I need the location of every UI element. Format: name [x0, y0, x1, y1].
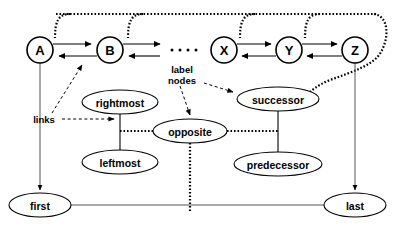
node-a-label: A — [35, 43, 45, 58]
label-node-first[interactable]: first — [9, 193, 71, 217]
dotted-curve-to-a — [55, 14, 70, 38]
label-node-leftmost[interactable]: leftmost — [82, 150, 158, 174]
ellipsis-dot — [195, 49, 198, 52]
node-z[interactable]: Z — [342, 37, 368, 63]
label-node-group: rightmost leftmost opposite successor pr… — [9, 87, 386, 217]
callout-links-to-pointer — [52, 65, 82, 113]
node-a[interactable]: A — [27, 37, 53, 63]
label-nodes-annotation-line1: label — [171, 64, 193, 75]
label-node-successor[interactable]: successor — [237, 87, 319, 111]
ellipsis-dot — [179, 49, 182, 52]
node-x[interactable]: X — [211, 37, 237, 63]
leftmost-label: leftmost — [100, 157, 141, 169]
node-b-label: B — [105, 43, 114, 58]
callout-labelnodes-to-successor — [204, 83, 233, 92]
rightmost-label: rightmost — [96, 97, 145, 109]
label-nodes-annotation-line2: nodes — [168, 75, 196, 86]
dotted-curve-to-x — [240, 14, 255, 38]
dotted-curve-to-b — [128, 14, 143, 38]
ellipsis-dot — [171, 49, 174, 52]
linked-list-diagram: A B X Y Z rightmost — [0, 0, 396, 227]
predecessor-label: predecessor — [247, 159, 309, 171]
node-z-label: Z — [351, 43, 359, 58]
first-label: first — [30, 200, 50, 212]
ellipsis-dots — [171, 49, 198, 52]
label-node-rightmost[interactable]: rightmost — [82, 90, 158, 114]
links-annotation: links — [33, 114, 55, 125]
node-b[interactable]: B — [97, 37, 123, 63]
node-x-label: X — [220, 43, 229, 58]
callout-labelnodes-to-opposite — [180, 86, 190, 115]
label-node-opposite[interactable]: opposite — [153, 119, 227, 143]
node-y[interactable]: Y — [276, 37, 302, 63]
successor-label: successor — [252, 94, 304, 106]
dotted-curve-to-y — [305, 14, 320, 38]
node-y-label: Y — [285, 43, 294, 58]
ellipsis-dot — [187, 49, 190, 52]
last-label: last — [346, 200, 365, 212]
label-node-predecessor[interactable]: predecessor — [234, 152, 322, 176]
label-node-last[interactable]: last — [324, 193, 386, 217]
diagram-canvas: A B X Y Z rightmost — [0, 0, 396, 227]
opposite-label: opposite — [168, 126, 212, 138]
